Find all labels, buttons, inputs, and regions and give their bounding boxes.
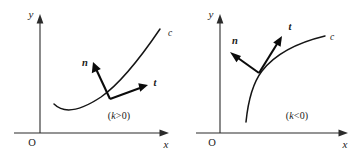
left-tangent-vector-arrowhead xyxy=(138,83,148,92)
right-x-axis-label: x xyxy=(342,138,348,150)
left-curve xyxy=(54,29,160,110)
left-x-axis-label: x xyxy=(163,138,169,150)
right-condition-label: (k<0) xyxy=(286,110,309,122)
right-curve-label: c xyxy=(330,32,335,42)
right-y-axis-arrowhead xyxy=(217,14,224,24)
left-tangent-vector-shaft xyxy=(110,88,140,99)
left-condition-relation: >0) xyxy=(116,110,131,122)
right-condition-relation: <0) xyxy=(294,110,309,122)
left-y-axis xyxy=(37,14,44,133)
left-normal-vector xyxy=(92,62,110,99)
left-x-axis-arrowhead xyxy=(160,130,170,137)
right-tangent-vector xyxy=(259,36,282,73)
curvature-diagram: y x O c n t (k>0) xyxy=(0,0,361,160)
right-tangent-vector-label: t xyxy=(289,21,293,32)
left-x-axis xyxy=(14,130,169,137)
left-condition-label: (k>0) xyxy=(108,110,131,122)
right-normal-vector-arrowhead xyxy=(230,52,241,62)
left-tangent-vector-label: t xyxy=(154,77,158,88)
right-y-axis-label: y xyxy=(208,8,214,20)
right-normal-vector xyxy=(230,52,259,73)
left-y-axis-arrowhead xyxy=(37,14,44,24)
right-origin-label: O xyxy=(208,137,216,148)
left-curve-label: c xyxy=(168,28,173,38)
left-normal-vector-label: n xyxy=(82,57,88,68)
panel-left: y x O c n t (k>0) xyxy=(14,8,173,150)
left-origin-label: O xyxy=(28,137,36,148)
left-y-axis-label: y xyxy=(28,8,34,20)
right-y-axis xyxy=(217,14,224,133)
right-normal-vector-shaft xyxy=(238,58,259,73)
right-normal-vector-label: n xyxy=(232,35,238,46)
panel-right: y x O c n t (k<0) xyxy=(196,8,348,150)
right-x-axis-arrowhead xyxy=(339,130,349,137)
right-tangent-vector-arrowhead xyxy=(273,36,282,47)
right-x-axis xyxy=(196,130,348,137)
